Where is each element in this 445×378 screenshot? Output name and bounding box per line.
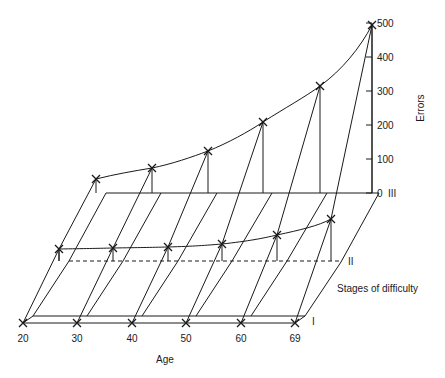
stage-3-group [92,21,379,193]
age-ticklabel-40: 40 [126,333,138,344]
spoke-age40-b [142,193,217,316]
spoke-age60-b [251,193,327,316]
errors-ticklabel-400: 400 [377,52,394,63]
stage-2-group [55,215,341,261]
errors-axis: 500 400 300 200 100 0 Errors [366,18,426,199]
stages-axis: I II III Stages of difficulty [312,188,418,327]
stage-label-1: I [312,316,315,327]
spoke-age40-a [132,151,208,323]
spoke-age30-b [87,193,161,316]
chart-figure: 500 400 300 200 100 0 Errors 20 30 40 50… [0,0,445,378]
stage-3-markers [92,21,376,183]
errors-ticklabel-300: 300 [377,86,394,97]
stage-2-markers [55,215,335,253]
age-axis: 20 30 40 50 60 69 Age [17,333,301,365]
age-ticklabel-50: 50 [180,333,192,344]
age-ticklabel-20: 20 [17,333,29,344]
3d-line-chart: 500 400 300 200 100 0 Errors 20 30 40 50… [0,0,445,378]
errors-ticklabel-200: 200 [377,120,394,131]
age-ticklabel-60: 60 [235,333,247,344]
errors-ticklabel-100: 100 [377,154,394,165]
stage-3-curve [96,25,372,179]
errors-axis-title: Errors [415,94,426,121]
spoke-age69-a [295,25,372,323]
spoke-age50-a [186,122,263,323]
age-ticklabel-30: 30 [71,333,83,344]
stage-2-curve [59,219,331,249]
spoke-age50-b [196,193,272,316]
spoke-age60-a [241,86,320,323]
stage-label-3: III [388,188,396,199]
spoke-age30-a [77,168,152,323]
errors-ticklabel-0: 0 [377,188,383,199]
depth-spokes-group [23,25,379,323]
errors-ticklabel-500: 500 [377,18,394,29]
stages-axis-title: Stages of difficulty [337,283,418,294]
stage-label-2: II [348,256,354,267]
stage-1-group [19,316,305,327]
age-axis-title: Age [156,354,174,365]
age-ticklabel-69: 69 [289,333,301,344]
spoke-age20-b [33,193,106,316]
